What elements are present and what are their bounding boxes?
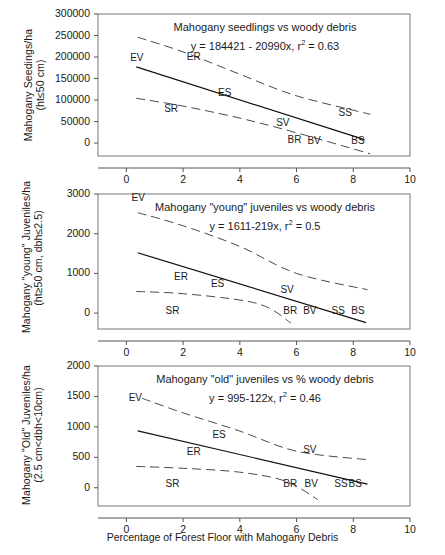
panel-equation: y = 184421 - 20990x, r2 = 0.63 (126, 35, 404, 54)
y-axis-title-line1: Mahogany "young" Juveniles/ha (20, 181, 32, 333)
panel-title-text: Mahogany "young" juveniles vs woody debr… (155, 201, 375, 213)
site-label-sv: SV (303, 444, 316, 455)
site-label-ev: EV (130, 52, 143, 63)
site-label-bs: BS (351, 305, 364, 316)
site-label-es: ES (211, 278, 224, 289)
panel-title: Mahogany seedlings vs woody debrisy = 18… (126, 20, 404, 54)
panel-title-text: Mahogany seedlings vs woody debris (174, 21, 357, 33)
chart-panel-young-juveniles: 02468100100020003000Mahogany "young" juv… (0, 180, 445, 356)
site-label-bs: BS (349, 478, 362, 489)
site-label-sv: SV (280, 284, 293, 295)
site-label-ss: SS (339, 107, 352, 118)
chart-panel-old-juveniles: 02468100500100015002000Mahogany "old" ju… (0, 352, 445, 532)
panel-equation: y = 995-122x, r2 = 0.46 (126, 387, 404, 406)
site-label-sr: SR (164, 103, 178, 114)
chart-panel-seedlings: 0246810050000100000150000200000250000300… (0, 0, 445, 186)
site-label-ss: SS (332, 305, 345, 316)
y-axis-title: Mahogany "Old" Juveniles/ha(2.5 cm<dbh<1… (20, 360, 44, 510)
y-axis-title-line1: Mahogany Seedings/ha (22, 29, 34, 141)
site-label-es: ES (212, 429, 225, 440)
panel-title: Mahogany "young" juveniles vs woody debr… (126, 200, 404, 234)
site-label-ev: EV (129, 392, 142, 403)
y-axis-title-line2: (ht≤50 cm) (34, 10, 46, 160)
site-label-br: BR (283, 305, 297, 316)
panel-title-text: Mahogany "old" juveniles vs % woody debr… (156, 373, 374, 385)
site-label-ev: EV (132, 192, 145, 203)
lower-confidence-band (136, 292, 291, 324)
y-axis-title-line1: Mahogany "Old" Juveniles/ha (20, 365, 32, 505)
y-axis-title: Mahogany "young" Juveniles/ha(ht≥50 cm, … (20, 183, 44, 333)
site-label-sr: SR (166, 305, 180, 316)
r-squared-exponent: 2 (301, 38, 305, 47)
figure-root: 0246810050000100000150000200000250000300… (0, 0, 445, 555)
site-label-es: ES (218, 87, 231, 98)
panel-equation: y = 1611-219x, r2 = 0.5 (126, 215, 404, 234)
x-axis-title: Percentage of Forest Floor with Mahogany… (0, 531, 445, 543)
site-label-br: BR (288, 134, 302, 145)
y-axis-title-line2: (ht≥50 cm, dbh≤2.5) (32, 183, 44, 333)
y-axis-title: Mahogany Seedings/ha(ht≤50 cm) (22, 10, 46, 160)
r-squared-exponent: 2 (283, 390, 287, 399)
y-axis-title-line2: (2.5 cm<dbh<10cm) (32, 360, 44, 510)
site-label-er: ER (174, 271, 188, 282)
site-label-bv: BV (303, 305, 316, 316)
panel-title: Mahogany "old" juveniles vs % woody debr… (126, 372, 404, 406)
upper-confidence-band (142, 398, 368, 459)
r-squared-exponent: 2 (288, 218, 292, 227)
site-label-bs: BS (351, 135, 364, 146)
site-label-ss: SS (334, 478, 347, 489)
regression-line (138, 431, 368, 484)
site-label-er: ER (187, 446, 201, 457)
site-label-bv: BV (307, 135, 320, 146)
site-label-bv: BV (305, 478, 318, 489)
site-label-er: ER (187, 51, 201, 62)
site-label-br: BR (283, 478, 297, 489)
site-label-sv: SV (276, 117, 289, 128)
site-label-sr: SR (166, 478, 180, 489)
